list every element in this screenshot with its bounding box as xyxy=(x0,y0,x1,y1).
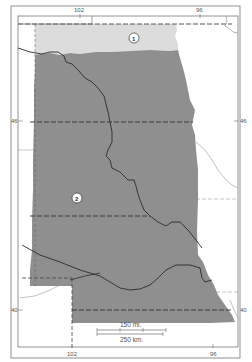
lon-label-96-top: 96 xyxy=(196,7,203,13)
lat-label-40-right: 40 xyxy=(240,307,247,313)
lat-label-46-left: 46 xyxy=(11,118,18,124)
scale-bar: 150 mi. 250 km. xyxy=(97,321,166,343)
lat-label-46-right: 46 xyxy=(240,118,247,124)
region-2-area xyxy=(30,50,235,323)
lon-label-102-top: 102 xyxy=(74,7,85,13)
scale-miles-label: 150 mi. xyxy=(120,321,142,328)
map-figure: 102 96 102 96 46 46 40 40 1 2 150 mi. 25… xyxy=(0,0,252,362)
ne-corner-border xyxy=(225,16,238,33)
scale-km-label: 250 km. xyxy=(120,336,143,343)
region-1-marker: 1 xyxy=(129,33,139,43)
minor-river-east xyxy=(196,142,238,188)
top-box-edge xyxy=(18,16,92,24)
map-canvas: 102 96 102 96 46 46 40 40 1 2 150 mi. 25… xyxy=(0,0,252,362)
lon-label-102-bottom: 102 xyxy=(67,351,78,357)
lat-label-40-left: 40 xyxy=(11,307,18,313)
region-2-marker: 2 xyxy=(72,193,82,203)
lon-label-96-bottom: 96 xyxy=(210,351,217,357)
